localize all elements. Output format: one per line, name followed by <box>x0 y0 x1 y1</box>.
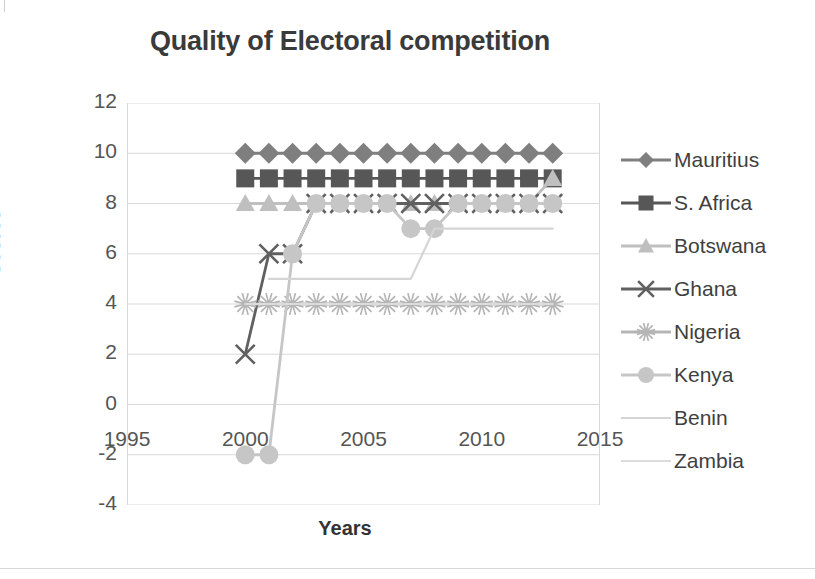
legend-item-kenya[interactable]: Kenya <box>620 353 815 396</box>
data-point-circle <box>401 219 420 238</box>
data-point-circle <box>259 445 278 464</box>
y-tick-label: 6 <box>69 240 117 264</box>
data-point-circle <box>449 194 468 213</box>
y-tick-label: 2 <box>69 340 117 364</box>
series-s--africa <box>236 169 561 187</box>
data-point-square <box>236 169 254 187</box>
series-line <box>245 204 552 455</box>
legend-marker-asterisk-icon <box>620 321 672 343</box>
data-point-square <box>260 169 278 187</box>
data-point-circle <box>638 367 654 383</box>
data-point-diamond <box>400 143 421 164</box>
data-point-square <box>307 169 325 187</box>
legend-label: Kenya <box>672 363 734 387</box>
data-point-diamond <box>353 143 374 164</box>
data-point-circle <box>354 194 373 213</box>
legend-label: Botswana <box>672 234 766 258</box>
chart-title: Quality of Electoral competition <box>0 26 700 57</box>
data-point-diamond <box>282 143 303 164</box>
legend-label: Zambia <box>672 449 744 473</box>
legend-label: Ghana <box>672 277 737 301</box>
legend-label: Mauritius <box>672 148 759 172</box>
legend-marker-line-icon <box>620 407 672 429</box>
legend-marker-circle-icon <box>620 364 672 386</box>
legend-label: Benin <box>672 406 728 430</box>
data-point-square <box>378 169 396 187</box>
data-point-circle <box>496 194 515 213</box>
legend-item-mauritius[interactable]: Mauritius <box>620 138 815 181</box>
data-point-circle <box>543 194 562 213</box>
data-point-circle <box>307 194 326 213</box>
data-point-diamond <box>638 152 654 168</box>
page-edge-mark <box>4 0 15 12</box>
data-point-diamond <box>258 143 279 164</box>
legend-marker-line-icon <box>620 450 672 472</box>
plot-area <box>127 103 600 505</box>
legend-item-nigeria[interactable]: Nigeria <box>620 310 815 353</box>
data-point-diamond <box>495 143 516 164</box>
legend-label: S. Africa <box>672 191 752 215</box>
data-point-diamond <box>329 143 350 164</box>
y-tick-label: 4 <box>69 290 117 314</box>
data-point-diamond <box>519 143 540 164</box>
data-point-diamond <box>424 143 445 164</box>
plot-svg <box>127 103 600 505</box>
data-point-square <box>402 169 420 187</box>
data-point-diamond <box>471 143 492 164</box>
y-tick-label: 10 <box>69 139 117 163</box>
data-point-diamond <box>542 143 563 164</box>
legend-item-botswana[interactable]: Botswana <box>620 224 815 267</box>
legend-item-benin[interactable]: Benin <box>620 396 815 439</box>
data-point-square <box>355 169 373 187</box>
series-kenya <box>236 194 562 464</box>
legend-marker-square-icon <box>620 192 672 214</box>
data-point-square <box>496 169 514 187</box>
data-point-diamond <box>448 143 469 164</box>
data-point-circle <box>520 194 539 213</box>
legend-item-zambia[interactable]: Zambia <box>620 439 815 482</box>
footer-rule <box>0 568 815 569</box>
legend-label: Nigeria <box>672 320 741 344</box>
y-tick-label: 12 <box>69 89 117 113</box>
data-point-circle <box>283 244 302 263</box>
y-tick-label: -4 <box>69 491 117 515</box>
legend-item-s--africa[interactable]: S. Africa <box>620 181 815 224</box>
data-point-square <box>449 169 467 187</box>
data-point-square <box>520 169 538 187</box>
data-point-diamond <box>235 143 256 164</box>
y-tick-label: 8 <box>69 190 117 214</box>
legend-marker-diamond-icon <box>620 149 672 171</box>
data-point-square <box>331 169 349 187</box>
data-point-square <box>425 169 443 187</box>
data-point-diamond <box>306 143 327 164</box>
data-point-square <box>639 195 654 210</box>
x-axis-title: Years <box>245 517 445 540</box>
data-point-square <box>284 169 302 187</box>
data-point-circle <box>472 194 491 213</box>
chart-legend: MauritiusS. AfricaBotswanaGhanaNigeriaKe… <box>620 138 815 482</box>
data-point-circle <box>330 194 349 213</box>
chart-container: Quality of Electoral competition Scores … <box>0 0 815 579</box>
data-point-circle <box>378 194 397 213</box>
data-point-circle <box>236 445 255 464</box>
legend-marker-triangle-icon <box>620 235 672 257</box>
y-tick-label: 0 <box>69 391 117 415</box>
y-axis-title: Scores <box>0 209 5 276</box>
legend-marker-cross-icon <box>620 278 672 300</box>
legend-item-ghana[interactable]: Ghana <box>620 267 815 310</box>
data-point-diamond <box>377 143 398 164</box>
series-mauritius <box>235 143 563 164</box>
data-point-square <box>473 169 491 187</box>
